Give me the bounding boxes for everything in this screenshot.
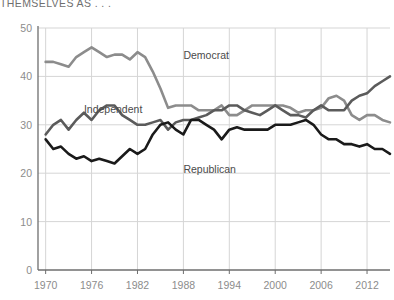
- x-axis-tick-label: 1970: [34, 279, 58, 291]
- x-axis-tick-label: 2000: [264, 279, 288, 291]
- x-axis-tick-labels: 19701976198219881994200020062012: [34, 279, 379, 291]
- chart-plot-area: 01020304050 1970197619821988199420002006…: [0, 0, 394, 300]
- y-axis-tick-labels: 01020304050: [20, 22, 32, 276]
- series-annotation-republican: Republican: [183, 163, 236, 175]
- y-axis-tick-label: 20: [20, 167, 32, 179]
- y-axis-tick-label: 30: [20, 119, 32, 131]
- series-annotation-democrat: Democrat: [183, 49, 229, 61]
- series-annotation-independent: Independent: [84, 103, 142, 115]
- x-axis-tick-label: 1976: [80, 279, 104, 291]
- gridlines-group: [38, 28, 390, 270]
- series-annotations-group: DemocratIndependentRepublican: [84, 49, 236, 175]
- y-axis-tick-label: 40: [20, 70, 32, 82]
- chart-root: THEMSELVES AS . . . 01020304050 19701976…: [0, 0, 394, 300]
- y-axis-tick-label: 10: [20, 216, 32, 228]
- x-axis-tick-label: 1988: [172, 279, 196, 291]
- x-axis-tick-label: 1982: [126, 279, 150, 291]
- axes-group: [38, 26, 390, 274]
- y-axis-tick-label: 50: [20, 22, 32, 34]
- series-line-republican: [46, 120, 390, 164]
- x-axis-tick-label: 2006: [309, 279, 333, 291]
- line-chart-svg: 01020304050 1970197619821988199420002006…: [0, 0, 394, 300]
- x-axis-tick-label: 1994: [218, 279, 242, 291]
- x-axis-tick-label: 2012: [355, 279, 379, 291]
- y-axis-tick-label: 0: [26, 264, 32, 276]
